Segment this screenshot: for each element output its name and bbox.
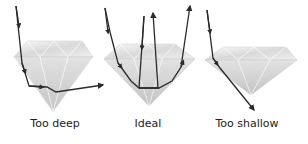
diamond-ideal — [104, 6, 195, 106]
diamond-cut-diagram: Too deep Ideal Too shallow — [0, 0, 308, 144]
label-too-shallow: Too shallow — [215, 117, 278, 130]
diamond-too-shallow — [205, 10, 297, 110]
label-too-deep: Too deep — [30, 117, 79, 130]
label-ideal: Ideal — [135, 117, 162, 130]
diamond-too-deep — [14, 6, 103, 112]
